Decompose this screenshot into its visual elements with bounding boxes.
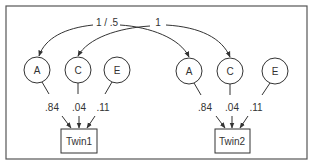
correlation-curve-a-twin1 <box>39 25 93 56</box>
twin2-factor-a-label: A <box>186 66 193 77</box>
twin1-label: Twin1 <box>66 136 93 147</box>
twin2-group: A C E .84 .04 .11 Twin2 <box>176 58 288 153</box>
ace-twin-diagram: 1 / .5 1 A C E .84 .04 .11 Twin1 A <box>0 0 312 164</box>
twin1-factor-e-label: E <box>114 65 121 76</box>
twin2-label: Twin2 <box>219 136 246 147</box>
twin1-factor-c-label: C <box>74 65 81 76</box>
twin2-factor-c-label: C <box>226 66 233 77</box>
correlation-curve-a-twin2 <box>120 25 189 57</box>
twin1-path-c-label: .04 <box>72 102 86 113</box>
correlation-curve-c-twin2 <box>166 25 230 57</box>
twin1-factor-a-label: A <box>34 65 41 76</box>
correlation-label-c: 1 <box>155 17 161 28</box>
diagram-frame <box>6 6 307 159</box>
twin1-path-e-label: .11 <box>96 102 110 113</box>
twin2-path-e-label: .11 <box>249 102 263 113</box>
twin1-group: A C E .84 .04 .11 Twin1 <box>24 57 130 153</box>
twin2-factor-e-label: E <box>272 66 279 77</box>
twin2-path-c-label: .04 <box>225 102 239 113</box>
twin1-path-a-label: .84 <box>45 102 59 113</box>
correlation-curve-c-twin1 <box>78 26 150 56</box>
correlation-label-a: 1 / .5 <box>96 17 119 28</box>
twin2-path-a-label: .84 <box>198 102 212 113</box>
